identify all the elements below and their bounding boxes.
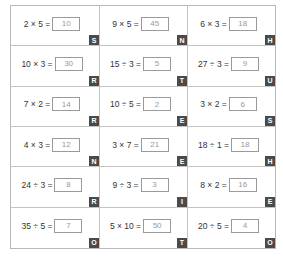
letter-badge: T [177, 76, 187, 86]
equation: 3 × 7 = 21 [112, 138, 168, 152]
problem-cell: 20 ÷ 5 = 4 O [188, 208, 275, 248]
equation: 24 ÷ 3 = 8 [22, 178, 83, 192]
problem-cell: 4 × 3 = 12 N [11, 127, 100, 167]
answer-box[interactable]: 30 [55, 57, 83, 71]
answer-box[interactable]: 4 [231, 219, 259, 233]
letter-badge: I [177, 197, 187, 207]
expression: 18 ÷ 1 = [198, 140, 229, 150]
letter-badge: E [265, 197, 275, 207]
answer-box[interactable]: 50 [143, 219, 171, 233]
equation: 9 × 5 = 45 [112, 17, 168, 31]
letter-badge: S [89, 35, 99, 45]
equation: 7 × 2 = 14 [24, 97, 80, 111]
problem-cell: 7 × 2 = 14 R [11, 87, 100, 127]
expression: 9 ÷ 3 = [112, 180, 138, 190]
answer-box[interactable]: 10 [52, 17, 80, 31]
expression: 9 × 5 = [112, 19, 138, 29]
expression: 35 ÷ 5 = [22, 221, 53, 231]
answer-box[interactable]: 7 [54, 219, 82, 233]
equation: 3 × 2 = 6 [200, 97, 256, 111]
problem-cell: 3 × 2 = 6 S [188, 87, 275, 127]
problem-cell: 3 × 7 = 21 E [100, 127, 188, 167]
letter-badge: N [89, 156, 99, 166]
answer-box[interactable]: 45 [141, 17, 169, 31]
answer-box[interactable]: 9 [231, 57, 259, 71]
answer-box[interactable]: 16 [229, 178, 257, 192]
answer-box[interactable]: 14 [52, 97, 80, 111]
equation: 27 ÷ 3 = 9 [198, 57, 259, 71]
expression: 7 × 2 = [24, 99, 50, 109]
letter-badge: E [177, 116, 187, 126]
letter-badge: R [89, 76, 99, 86]
equation: 20 ÷ 5 = 4 [198, 219, 259, 233]
expression: 2 × 5 = [24, 19, 50, 29]
answer-box[interactable]: 5 [143, 57, 171, 71]
equation: 18 ÷ 1 = 18 [198, 138, 259, 152]
answer-box[interactable]: 3 [141, 178, 169, 192]
answer-box[interactable]: 6 [229, 97, 257, 111]
expression: 3 × 2 = [200, 99, 226, 109]
equation: 15 ÷ 3 = 5 [110, 57, 171, 71]
problem-cell: 9 × 5 = 45 N [100, 6, 188, 46]
expression: 5 × 10 = [110, 221, 141, 231]
expression: 10 ÷ 5 = [110, 99, 141, 109]
problem-cell: 27 ÷ 3 = 9 U [188, 46, 275, 86]
equation: 35 ÷ 5 = 7 [22, 219, 83, 233]
letter-badge: H [265, 35, 275, 45]
letter-badge: U [265, 76, 275, 86]
expression: 10 × 3 = [21, 59, 52, 69]
expression: 4 × 3 = [24, 140, 50, 150]
expression: 15 ÷ 3 = [110, 59, 141, 69]
letter-badge: S [265, 116, 275, 126]
equation: 8 × 2 = 16 [200, 178, 256, 192]
answer-box[interactable]: 18 [231, 138, 259, 152]
problem-cell: 18 ÷ 1 = 18 H [188, 127, 275, 167]
equation: 6 × 3 = 18 [200, 17, 256, 31]
answer-box[interactable]: 18 [229, 17, 257, 31]
equation: 2 × 5 = 10 [24, 17, 80, 31]
expression: 24 ÷ 3 = [22, 180, 53, 190]
letter-badge: N [177, 35, 187, 45]
problem-cell: 10 × 3 = 30 R [11, 46, 100, 86]
problem-cell: 24 ÷ 3 = 8 R [11, 167, 100, 207]
equation: 9 ÷ 3 = 3 [112, 178, 168, 192]
expression: 3 × 7 = [112, 140, 138, 150]
problem-cell: 35 ÷ 5 = 7 O [11, 208, 100, 248]
problem-cell: 10 ÷ 5 = 2 E [100, 87, 188, 127]
equation: 5 × 10 = 50 [110, 219, 171, 233]
letter-badge: H [265, 156, 275, 166]
letter-badge: O [265, 238, 275, 248]
problem-cell: 9 ÷ 3 = 3 I [100, 167, 188, 207]
letter-badge: R [89, 116, 99, 126]
expression: 8 × 2 = [200, 180, 226, 190]
equation: 4 × 3 = 12 [24, 138, 80, 152]
letter-badge: E [177, 156, 187, 166]
answer-box[interactable]: 12 [52, 138, 80, 152]
expression: 27 ÷ 3 = [198, 59, 229, 69]
answer-box[interactable]: 8 [54, 178, 82, 192]
problem-cell: 15 ÷ 3 = 5 T [100, 46, 188, 86]
expression: 20 ÷ 5 = [198, 221, 229, 231]
letter-badge: O [89, 238, 99, 248]
expression: 6 × 3 = [200, 19, 226, 29]
problem-cell: 6 × 3 = 18 H [188, 6, 275, 46]
answer-box[interactable]: 2 [143, 97, 171, 111]
problem-cell: 5 × 10 = 50 T [100, 208, 188, 248]
answer-box[interactable]: 21 [141, 138, 169, 152]
problem-cell: 8 × 2 = 16 E [188, 167, 275, 207]
letter-badge: T [177, 238, 187, 248]
equation: 10 ÷ 5 = 2 [110, 97, 171, 111]
letter-badge: R [89, 197, 99, 207]
worksheet-grid: 2 × 5 = 10 S 9 × 5 = 45 N 6 × 3 = 18 H 1… [10, 5, 276, 249]
problem-cell: 2 × 5 = 10 S [11, 6, 100, 46]
equation: 10 × 3 = 30 [21, 57, 82, 71]
